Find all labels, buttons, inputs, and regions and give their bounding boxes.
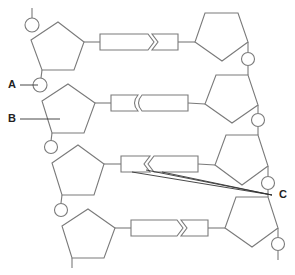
sugar-pentagon [62,209,115,258]
sugar-pentagon [195,13,248,61]
phosphate-circle [45,141,58,154]
base-pair-row-1 [84,34,195,50]
sugar-pentagon [225,197,278,247]
leader-line-c-1 [132,172,272,195]
left-strand-line [61,195,62,203]
left-strand-line [41,70,42,78]
base-pair-row-3 [104,156,215,172]
dna-diagram [0,0,295,275]
phosphate-circle [252,114,265,127]
sugar-pentagon [31,22,84,70]
label-c: C [279,188,287,200]
phosphate-circle [242,53,255,66]
sugar-pentagon [205,75,258,123]
sugar-pentagon [215,135,268,185]
left-strand-line [51,133,52,141]
label-a: A [8,78,16,90]
sugar-pentagon [52,145,104,195]
phosphate-circle [272,238,285,251]
phosphate-circle [25,18,39,32]
phosphate-circle [262,177,275,190]
phosphate-circle [55,204,68,217]
base-pair-row-4 [115,220,225,236]
sugar-pentagon [42,84,95,133]
base-pair-row-2 [95,95,205,111]
label-b: B [8,112,16,124]
